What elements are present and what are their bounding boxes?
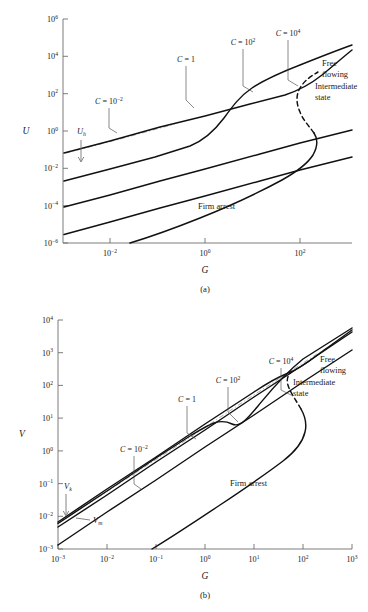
x-ticklabel: 10−1 — [149, 554, 163, 564]
region-label-firm-arrest-b: Firm arrest — [230, 479, 268, 488]
marker-label-vk: Vk — [64, 482, 72, 492]
marker-uh-a: Uh — [77, 127, 86, 162]
curve-label-c-1e-2-a: C = 10−2 — [95, 96, 123, 106]
curve-c-1e4-lower-branch-b — [152, 409, 306, 549]
panel-a-leaders — [109, 40, 298, 133]
marker-label-vm: Vm — [93, 516, 102, 526]
leader-line — [243, 49, 253, 92]
panel-b-x-ticks — [58, 544, 352, 549]
curve-c-1e4-b — [58, 330, 352, 522]
y-ticklabel: 100 — [42, 446, 53, 456]
panel-b-y-ticks — [58, 320, 63, 549]
panel-caption-b: (b) — [200, 590, 210, 600]
marker-leader-vm — [76, 518, 90, 520]
x-axis-title-a: G — [202, 265, 209, 275]
x-ticklabel: 10−3 — [51, 554, 65, 564]
panel-b-x-ticklabels: 10−3 10−2 10−1 100 101 102 103 — [51, 554, 358, 564]
region-label-free-flowing-b: Free — [320, 355, 335, 364]
y-axis-title-a: U — [23, 126, 31, 136]
y-ticklabel: 10−2 — [44, 163, 58, 173]
region-label-intermediate-a-2: state — [315, 93, 331, 102]
region-label-intermediate-a: Intermediate — [315, 82, 358, 91]
y-ticklabel: 102 — [42, 380, 53, 390]
x-ticklabel: 102 — [298, 554, 309, 564]
region-label-free-flowing-b-2: flowing — [320, 366, 347, 375]
y-ticklabel: 10−2 — [39, 511, 53, 521]
y-ticklabel: 100 — [47, 126, 58, 136]
leader-line — [228, 387, 238, 422]
x-ticklabel: 103 — [347, 554, 358, 564]
x-ticklabel: 10−2 — [100, 554, 114, 564]
region-label-intermediate-b-2: state — [293, 389, 309, 398]
y-ticklabel: 104 — [47, 51, 58, 61]
panel-a-x-ticklabels: 10−2 100 102 — [103, 248, 306, 258]
y-axis-title-b: V — [19, 429, 26, 439]
panel-a-y-ticks — [63, 19, 68, 243]
curve-label-c-1e4-b: C = 104 — [269, 356, 294, 366]
panel-caption-a: (a) — [200, 284, 210, 294]
panel-b-y-ticklabels: 104 103 102 101 100 10−1 10−2 10−3 — [39, 315, 53, 554]
curve-label-c-1-a: C = 1 — [177, 55, 195, 64]
curve-label-c-1e4-a: C = 104 — [276, 28, 301, 38]
chart-panel-b: 104 103 102 101 100 10−1 10−2 10−3 — [0, 306, 368, 612]
x-ticklabel: 10−2 — [103, 248, 117, 258]
panel-a-curve-labels: C = 10−2 C = 1 C = 102 C = 104 — [95, 28, 300, 106]
leader-line — [109, 108, 117, 133]
curve-label-c-1-b: C = 1 — [178, 395, 196, 404]
chart-panel-a: 106 104 102 100 10−2 10−4 10−6 10−2 100 … — [0, 0, 368, 306]
y-ticklabel: 10−3 — [39, 544, 53, 554]
y-ticklabel: 102 — [47, 88, 58, 98]
marker-label-uh: Uh — [77, 127, 86, 137]
panel-a-y-ticklabels: 106 104 102 100 10−2 10−4 10−6 — [44, 14, 58, 248]
x-axis-title-b: G — [202, 571, 209, 581]
y-ticklabel: 10−1 — [39, 478, 53, 488]
x-ticklabel: 100 — [200, 554, 211, 564]
region-label-free-flowing-a-2: flowing — [322, 70, 349, 79]
curve-label-c-1e2-b: C = 102 — [216, 375, 241, 385]
x-ticklabel: 100 — [200, 248, 211, 258]
leader-line — [186, 66, 194, 108]
curve-label-c-1e-2-b: C = 10−2 — [120, 444, 148, 454]
region-label-intermediate-b: Intermediate — [293, 378, 336, 387]
curve-label-c-1e2-a: C = 102 — [231, 37, 256, 47]
curve-c-1e4-lower-branch-a — [130, 133, 317, 243]
y-ticklabel: 10−6 — [44, 238, 58, 248]
figure-container: 106 104 102 100 10−2 10−4 10−6 10−2 100 … — [0, 0, 368, 612]
region-label-firm-arrest-a: Firm arrest — [198, 202, 236, 211]
y-ticklabel: 106 — [47, 14, 58, 24]
region-label-free-flowing-a: Free — [322, 59, 337, 68]
panel-b-curve-labels: C = 10−2 C = 1 C = 102 C = 104 — [120, 356, 293, 454]
y-ticklabel: 104 — [42, 315, 53, 325]
leader-line — [288, 40, 298, 86]
y-ticklabel: 103 — [42, 347, 53, 357]
x-ticklabel: 101 — [249, 554, 260, 564]
y-ticklabel: 101 — [42, 413, 53, 423]
x-ticklabel: 102 — [295, 248, 306, 258]
curve-c-1e2-b — [58, 328, 352, 524]
marker-vk-b: Vk — [63, 482, 72, 516]
y-ticklabel: 10−4 — [44, 200, 58, 210]
